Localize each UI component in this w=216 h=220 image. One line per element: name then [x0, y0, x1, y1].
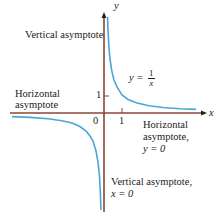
x-axis-label: x	[209, 107, 214, 119]
function-prefix: y =	[129, 72, 143, 83]
horizontal-asymptote-right-line1: Horizontal	[143, 119, 188, 131]
vertical-asymptote-bottom-line1: Vertical asymptote,	[111, 176, 192, 188]
horizontal-asymptote-right-line2: asymptote,	[143, 131, 189, 143]
horizontal-asymptote-right-line3: y = 0	[143, 143, 165, 155]
vertical-asymptote-top-label: Vertical asymptote	[25, 29, 103, 41]
horizontal-asymptote-left-line2: asymptote	[15, 99, 58, 111]
vertical-asymptote-bottom-line2: x = 0	[111, 188, 133, 200]
fraction: 1 x	[148, 69, 155, 88]
y-axis-arrow-icon	[102, 12, 107, 18]
x-axis-arrow-icon	[201, 111, 207, 116]
x-tick-label: 1	[119, 115, 124, 127]
curve-left-branch	[12, 117, 101, 210]
fraction-denominator: x	[148, 79, 155, 88]
origin-label: 0	[93, 115, 98, 127]
y-axis-label: y	[114, 0, 119, 12]
function-label: y = 1 x	[129, 69, 155, 88]
y-tick-label: 1	[96, 89, 101, 101]
curve-right-branch	[108, 17, 197, 109]
